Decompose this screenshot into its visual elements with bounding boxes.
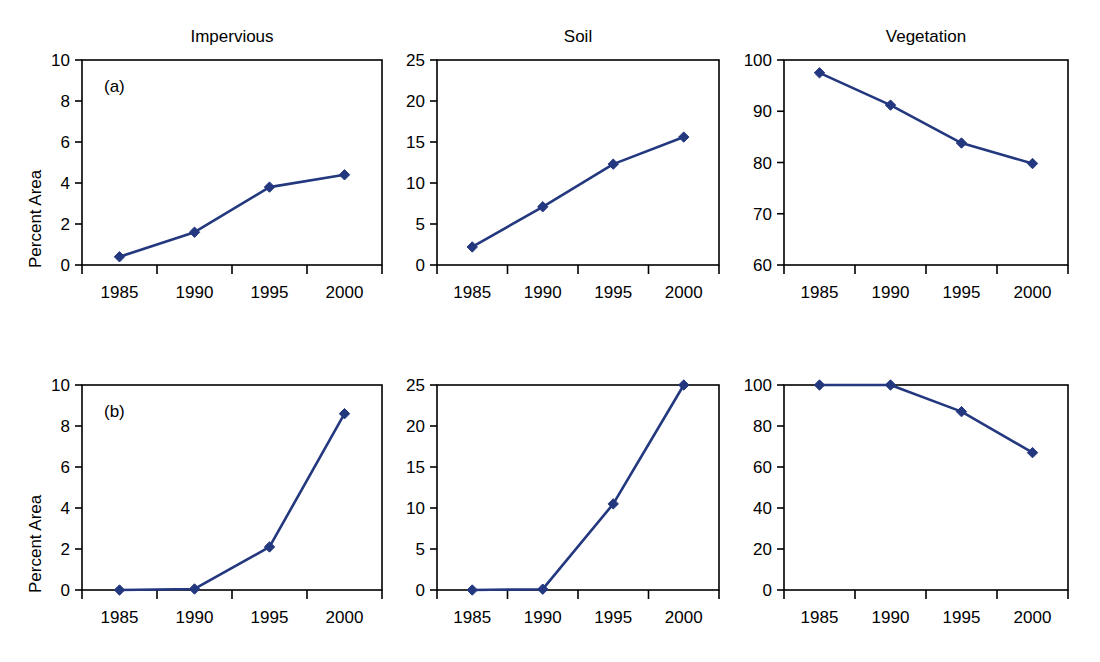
- y-tick-label: 5: [416, 215, 425, 234]
- x-tick-label: 1985: [801, 608, 839, 627]
- y-tick-label: 10: [51, 51, 70, 70]
- x-tick-label: 1995: [594, 283, 632, 302]
- y-tick-label: 25: [406, 376, 425, 395]
- panel-b-impervious: 02468101985199019952000(b): [51, 376, 382, 627]
- panel-title: Vegetation: [886, 27, 966, 46]
- data-point-marker: [814, 380, 824, 390]
- y-axis-label-row-b: Percent Area: [26, 495, 46, 593]
- x-tick-label: 1995: [251, 608, 289, 627]
- data-point-marker: [1027, 447, 1037, 457]
- series-line: [120, 175, 345, 257]
- y-tick-label: 20: [753, 540, 772, 559]
- panel-b-soil: 05101520251985199019952000: [406, 376, 719, 627]
- x-tick-label: 1990: [176, 283, 214, 302]
- x-tick-label: 2000: [665, 283, 703, 302]
- data-point-marker: [467, 242, 477, 252]
- data-point-marker: [189, 584, 199, 594]
- plot-frame: [437, 385, 719, 590]
- x-tick-label: 2000: [326, 608, 364, 627]
- y-tick-label: 20: [406, 417, 425, 436]
- y-tick-label: 4: [61, 499, 70, 518]
- data-point-marker: [885, 380, 895, 390]
- panel-b-vegetation: 0204060801001985199019952000: [744, 376, 1068, 627]
- data-point-marker: [956, 406, 966, 416]
- data-point-marker: [114, 252, 124, 262]
- x-tick-label: 2000: [665, 608, 703, 627]
- data-point-marker: [956, 138, 966, 148]
- y-tick-label: 20: [406, 92, 425, 111]
- panel-a-vegetation: 607080901001985199019952000Vegetation: [744, 27, 1068, 302]
- x-tick-label: 1985: [453, 608, 491, 627]
- multi-panel-line-chart: 02468101985199019952000Impervious(a)0510…: [0, 0, 1100, 662]
- plot-frame: [437, 60, 719, 265]
- y-tick-label: 0: [416, 256, 425, 275]
- y-tick-label: 6: [61, 458, 70, 477]
- y-tick-label: 60: [753, 256, 772, 275]
- y-tick-label: 0: [763, 581, 772, 600]
- data-point-marker: [264, 542, 274, 552]
- x-tick-label: 1990: [524, 608, 562, 627]
- y-tick-label: 70: [753, 205, 772, 224]
- y-tick-label: 0: [416, 581, 425, 600]
- y-tick-label: 2: [61, 540, 70, 559]
- x-tick-label: 1995: [251, 283, 289, 302]
- y-tick-label: 80: [753, 417, 772, 436]
- y-tick-label: 6: [61, 133, 70, 152]
- y-axis-label-row-a: Percent Area: [26, 170, 46, 268]
- y-tick-label: 15: [406, 458, 425, 477]
- x-tick-label: 2000: [1014, 608, 1052, 627]
- panel-a-soil: 05101520251985199019952000Soil: [406, 27, 719, 302]
- y-tick-label: 80: [753, 154, 772, 173]
- figure-canvas: 02468101985199019952000Impervious(a)0510…: [0, 0, 1100, 662]
- panel-a-impervious: 02468101985199019952000Impervious(a): [51, 27, 382, 302]
- y-tick-label: 40: [753, 499, 772, 518]
- x-tick-label: 2000: [1014, 283, 1052, 302]
- data-point-marker: [1027, 158, 1037, 168]
- y-tick-label: 8: [61, 417, 70, 436]
- plot-frame: [784, 385, 1068, 590]
- y-tick-label: 2: [61, 215, 70, 234]
- y-tick-label: 100: [744, 51, 772, 70]
- series-line: [820, 73, 1033, 164]
- y-tick-label: 15: [406, 133, 425, 152]
- panel-title: Soil: [564, 27, 592, 46]
- y-tick-label: 4: [61, 174, 70, 193]
- y-tick-label: 60: [753, 458, 772, 477]
- x-tick-label: 1990: [872, 283, 910, 302]
- x-tick-label: 1995: [943, 608, 981, 627]
- plot-frame: [82, 60, 382, 265]
- data-point-marker: [467, 585, 477, 595]
- data-point-marker: [679, 132, 689, 142]
- y-tick-label: 100: [744, 376, 772, 395]
- y-tick-label: 0: [61, 581, 70, 600]
- y-tick-label: 25: [406, 51, 425, 70]
- y-tick-label: 5: [416, 540, 425, 559]
- y-tick-label: 8: [61, 92, 70, 111]
- x-tick-label: 1990: [524, 283, 562, 302]
- y-tick-label: 90: [753, 102, 772, 121]
- panel-tag: (a): [104, 77, 125, 96]
- x-tick-label: 1985: [453, 283, 491, 302]
- series-line: [472, 385, 684, 590]
- data-point-marker: [339, 409, 349, 419]
- y-tick-label: 0: [61, 256, 70, 275]
- x-tick-label: 1995: [943, 283, 981, 302]
- series-line: [120, 414, 345, 590]
- plot-frame: [82, 385, 382, 590]
- x-tick-label: 1995: [594, 608, 632, 627]
- panel-title: Impervious: [190, 27, 273, 46]
- data-point-marker: [814, 68, 824, 78]
- series-line: [820, 385, 1033, 453]
- x-tick-label: 1985: [101, 283, 139, 302]
- data-point-marker: [114, 585, 124, 595]
- y-tick-label: 10: [51, 376, 70, 395]
- y-tick-label: 10: [406, 499, 425, 518]
- x-tick-label: 2000: [326, 283, 364, 302]
- x-tick-label: 1985: [101, 608, 139, 627]
- data-point-marker: [339, 170, 349, 180]
- data-point-marker: [885, 100, 895, 110]
- x-tick-label: 1985: [801, 283, 839, 302]
- x-tick-label: 1990: [176, 608, 214, 627]
- series-line: [472, 137, 684, 247]
- x-tick-label: 1990: [872, 608, 910, 627]
